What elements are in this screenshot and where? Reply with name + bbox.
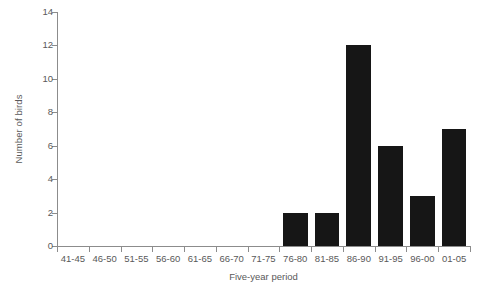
x-axis-title: Five-year period: [57, 271, 470, 282]
x-axis-tick-labels: 41-4546-5051-5556-6061-6566-7071-7576-80…: [57, 252, 470, 268]
x-tick-label-01-05: 01-05: [438, 252, 470, 266]
bar-76-80: [283, 213, 308, 246]
x-tick-label-81-85: 81-85: [311, 252, 343, 266]
x-tick-label-71-75: 71-75: [248, 252, 280, 266]
bar-91-95: [378, 146, 403, 246]
x-tick-label-46-50: 46-50: [89, 252, 121, 266]
y-tick-label: 6: [48, 139, 53, 152]
x-tick-label-96-00: 96-00: [406, 252, 438, 266]
x-axis-line: [57, 246, 471, 247]
y-tick-label: 0: [48, 239, 53, 252]
bar-81-85: [315, 213, 340, 246]
plot-area: 02468101214: [57, 12, 470, 246]
bar-96-00: [410, 196, 435, 246]
bar-86-90: [346, 45, 371, 246]
bar-chart: Number of birds 02468101214 41-4546-5051…: [0, 0, 486, 298]
x-tick-label-41-45: 41-45: [57, 252, 89, 266]
y-tick-label: 10: [42, 72, 53, 85]
y-tick-label: 14: [42, 5, 53, 18]
x-tick-label-86-90: 86-90: [343, 252, 375, 266]
x-tick-label-66-70: 66-70: [216, 252, 248, 266]
y-axis-title: Number of birds: [9, 0, 27, 258]
x-tick-label-91-95: 91-95: [375, 252, 407, 266]
x-tick-label-56-60: 56-60: [152, 252, 184, 266]
y-tick-label: 2: [48, 206, 53, 219]
y-tick-label: 4: [48, 172, 53, 185]
y-tick-label: 12: [42, 38, 53, 51]
y-tick-label: 8: [48, 105, 53, 118]
x-tick-mark: [470, 247, 471, 252]
x-tick-label-61-65: 61-65: [184, 252, 216, 266]
bar-01-05: [442, 129, 467, 246]
y-axis-line: [57, 12, 58, 247]
x-tick-label-76-80: 76-80: [279, 252, 311, 266]
x-tick-label-51-55: 51-55: [121, 252, 153, 266]
